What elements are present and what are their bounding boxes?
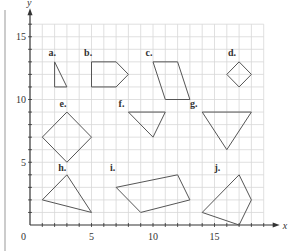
shape-label: d. [228,47,237,58]
shape-f: f. [119,98,166,137]
y-axis-label: y [26,0,32,8]
x-tick-label: 15 [210,231,220,242]
shape-label: f. [119,98,125,109]
shape-label: i. [110,162,116,173]
shape-c: c. [146,47,190,100]
y-tick-label: 5 [21,157,26,168]
axes: 5101551015 [16,8,280,242]
shape-label: c. [146,47,153,58]
shape-label: h. [58,162,67,173]
coordinate-grid-figure: 5101551015 a.b.c.d.e.f.g.h.i.j. x y 0 [0,0,296,251]
y-tick-label: 15 [16,31,26,42]
shape-label: g. [190,98,198,109]
shape-label: b. [84,47,93,58]
shape-a: a. [48,47,66,87]
shape-label: j. [214,162,221,173]
shape-label: e. [60,98,67,109]
x-tick-label: 10 [148,231,158,242]
shape-b: b. [84,47,128,87]
x-axis-label: x [282,220,288,231]
shapes-layer: a.b.c.d.e.f.g.h.i.j. [42,47,251,225]
x-tick-label: 5 [89,231,94,242]
shape-g: g. [190,98,252,150]
y-tick-label: 10 [16,94,26,105]
origin-label: 0 [21,231,26,242]
shape-label: a. [48,47,56,58]
